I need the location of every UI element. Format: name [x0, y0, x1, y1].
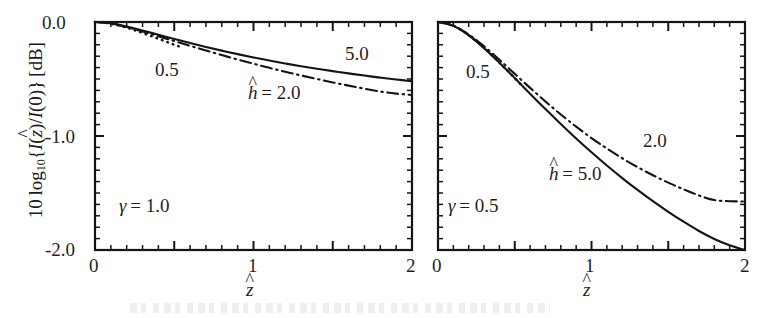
left-curve-label-h20: ^h = 2.0 [248, 83, 301, 102]
left-gamma-label: γ = 1.0 [119, 196, 170, 215]
left-y-tick-1: -1.0 [45, 127, 75, 146]
right-x-tick-2: 2 [740, 256, 750, 275]
left-x-tick-2: 2 [406, 256, 416, 275]
figure-root: 10 log10{I(^z)/I(0)} [dB] 0.0 -1.0 -2.0 … [0, 0, 770, 318]
right-curve-label-h50: ^h = 5.0 [549, 164, 602, 183]
right-x-tick-0: 0 [432, 256, 442, 275]
left-x-tick-0: 0 [89, 256, 99, 275]
left-curve-label-05: 0.5 [155, 60, 179, 79]
right-x-axis-title: ^z [583, 280, 590, 299]
left-y-tick-0: 0.0 [42, 13, 66, 32]
left-y-tick-2: -2.0 [45, 240, 75, 259]
right-curve-label-05: 0.5 [466, 62, 490, 81]
right-curve-label-20: 2.0 [643, 131, 667, 150]
caption-remnant [130, 303, 550, 313]
left-x-axis-title: ^z [246, 280, 253, 299]
left-curve-label-50: 5.0 [345, 44, 369, 63]
right-panel-plot [0, 0, 770, 318]
right-gamma-label: γ = 0.5 [448, 196, 499, 215]
